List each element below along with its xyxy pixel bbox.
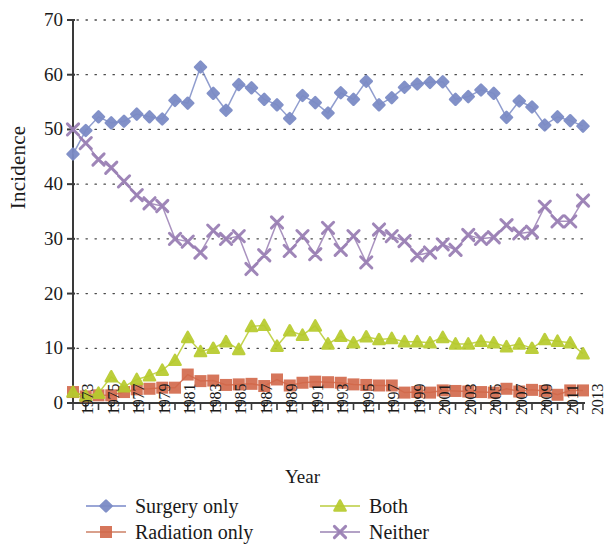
data-point-cross: [80, 138, 91, 149]
data-point-cross: [271, 217, 282, 228]
data-point-diamond: [106, 117, 117, 128]
x-axis-tick-label: 1975: [105, 384, 123, 415]
series-neither: [67, 124, 588, 275]
data-point-diamond: [539, 120, 550, 131]
data-point-square: [101, 527, 110, 536]
data-point-diamond: [488, 88, 499, 99]
data-point-triangle: [348, 337, 359, 347]
data-point-triangle: [450, 338, 461, 348]
data-point-cross: [208, 225, 219, 236]
data-point-diamond: [101, 501, 112, 512]
data-point-triangle: [246, 321, 257, 331]
data-point-triangle: [386, 333, 397, 343]
x-axis-tick-label: 1981: [181, 384, 199, 415]
data-point-triangle: [144, 370, 155, 380]
data-point-cross: [144, 198, 155, 209]
data-point-cross: [182, 236, 193, 247]
data-point-cross: [361, 257, 372, 268]
x-axis-tick-label: 1997: [385, 384, 403, 415]
data-point-cross: [195, 247, 206, 258]
data-point-triangle: [322, 338, 333, 348]
data-point-cross: [373, 224, 384, 235]
data-point-diamond: [170, 95, 181, 106]
data-point-triangle: [220, 336, 231, 346]
data-point-cross: [335, 244, 346, 255]
x-axis-tick-label: 2003: [462, 384, 480, 415]
data-point-diamond: [361, 76, 372, 87]
plot-area: [0, 0, 605, 544]
data-point-cross: [386, 231, 397, 242]
data-point-cross: [93, 154, 104, 165]
data-point-cross: [246, 263, 257, 274]
data-point-triangle: [501, 341, 512, 351]
data-point-diamond: [565, 115, 576, 126]
data-point-diamond: [463, 91, 474, 102]
x-axis-tick-label: 2001: [436, 384, 454, 415]
data-point-cross: [463, 229, 474, 240]
data-point-triangle: [463, 338, 474, 348]
x-axis-tick-label: 1977: [130, 384, 148, 415]
legend-marker: [334, 500, 345, 510]
data-point-cross: [348, 231, 359, 242]
data-point-square: [183, 370, 192, 379]
data-point-diamond: [119, 116, 130, 127]
data-point-triangle: [169, 355, 180, 365]
data-point-diamond: [208, 88, 219, 99]
chart-legend: Surgery only Radiation only Both Neither: [0, 492, 605, 544]
x-axis-tick-label: 1991: [309, 384, 327, 415]
legend-marker: [334, 526, 345, 537]
data-point-diamond: [578, 121, 589, 132]
data-point-cross: [322, 222, 333, 233]
series-line: [73, 129, 583, 269]
data-point-diamond: [144, 111, 155, 122]
data-point-diamond: [131, 109, 142, 120]
legend-marker-square-icon: [84, 521, 128, 543]
data-point-diamond: [68, 149, 79, 160]
data-point-diamond: [412, 79, 423, 90]
x-axis-tick-label: 2011: [564, 384, 582, 415]
data-point-cross: [157, 200, 168, 211]
x-axis-tick-label: 1993: [334, 384, 352, 415]
data-point-triangle: [334, 500, 345, 510]
x-axis-title: Year: [0, 466, 605, 488]
data-point-diamond: [195, 62, 206, 73]
legend-item-both: Both: [318, 494, 408, 518]
legend-label: Radiation only: [135, 521, 253, 544]
data-point-triangle: [437, 332, 448, 342]
legend-marker-cross-icon: [318, 521, 362, 543]
data-point-triangle: [297, 330, 308, 340]
data-point-triangle: [310, 320, 321, 330]
data-point-diamond: [552, 111, 563, 122]
data-point-cross: [284, 245, 295, 256]
x-axis-tick-label: 2007: [513, 384, 531, 415]
data-point-triangle: [233, 344, 244, 354]
data-point-diamond: [374, 99, 385, 110]
data-point-cross: [233, 231, 244, 242]
y-axis-tick-label: 50: [17, 119, 63, 138]
legend-item-surgery-only: Surgery only: [84, 494, 239, 518]
data-point-cross: [106, 162, 117, 173]
data-point-triangle: [335, 331, 346, 341]
y-axis-tick-label: 10: [17, 338, 63, 357]
data-point-triangle: [514, 338, 525, 348]
y-axis-tick-label: 30: [17, 229, 63, 248]
data-point-triangle: [424, 337, 435, 347]
data-point-cross: [310, 249, 321, 260]
data-point-diamond: [297, 90, 308, 101]
data-point-diamond: [476, 85, 487, 96]
data-point-triangle: [373, 334, 384, 344]
y-axis-tick-label: 40: [17, 174, 63, 193]
data-point-square: [272, 375, 281, 384]
data-point-triangle: [131, 374, 142, 384]
data-point-cross: [577, 195, 588, 206]
incidence-by-treatment-line-chart: Incidence Year 010203040506070 197319751…: [0, 0, 605, 544]
data-point-diamond: [335, 87, 346, 98]
legend-label: Surgery only: [135, 495, 239, 518]
legend-item-neither: Neither: [318, 520, 429, 544]
y-axis-tick-label: 60: [17, 65, 63, 84]
data-point-triangle: [552, 336, 563, 346]
y-axis-tick-label: 70: [17, 10, 63, 29]
data-point-cross: [399, 235, 410, 246]
data-point-cross: [169, 233, 180, 244]
data-point-triangle: [157, 365, 168, 375]
